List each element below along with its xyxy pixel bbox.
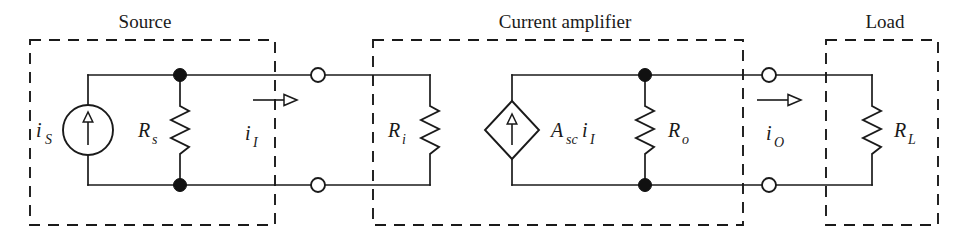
svg-text:L: L [907, 132, 916, 147]
svg-text:o: o [682, 132, 689, 147]
independent-current-source-symbol [63, 105, 113, 155]
svg-text:I: I [589, 132, 596, 147]
svg-text:sc: sc [566, 132, 578, 147]
resistor-ri-symbol [421, 106, 439, 154]
open-terminal-output-top [762, 68, 776, 82]
label-load-resistance: R L [893, 119, 916, 147]
svg-text:i: i [36, 119, 42, 141]
node-dot-source-bottom [174, 179, 187, 192]
circuit-diagram-canvas: Source Current amplifier Load [0, 0, 958, 251]
dependent-current-source-symbol [485, 101, 539, 159]
section-title-current-amplifier: Current amplifier [499, 11, 632, 32]
label-dependent-source: A sc i I [549, 119, 596, 147]
label-output-resistance: R o [667, 119, 689, 147]
svg-text:R: R [893, 119, 906, 141]
node-dot-source-top [174, 69, 187, 82]
resistor-rl-symbol [863, 106, 881, 154]
label-input-current: i I [245, 122, 259, 150]
svg-text:O: O [774, 135, 784, 150]
svg-text:i: i [766, 122, 772, 144]
circuit-diagram-figure: Source Current amplifier Load [0, 0, 958, 251]
svg-text:R: R [667, 119, 680, 141]
label-input-resistance: R i [387, 119, 406, 147]
label-source-current: i S [36, 119, 52, 147]
label-source-resistance: R s [137, 119, 158, 147]
section-title-source: Source [119, 11, 172, 32]
svg-text:i: i [402, 132, 406, 147]
svg-text:I: I [252, 135, 259, 150]
resistor-ro-symbol [636, 106, 654, 154]
svg-text:s: s [152, 132, 158, 147]
label-output-current: i O [766, 122, 784, 150]
svg-text:A: A [549, 119, 564, 141]
svg-text:S: S [45, 132, 52, 147]
resistor-rs-symbol [171, 106, 189, 154]
node-dot-amp-top [639, 69, 652, 82]
dashed-box-load [826, 40, 938, 225]
svg-text:R: R [387, 119, 400, 141]
open-terminal-input-top [311, 68, 325, 82]
current-arrow-iO [757, 95, 801, 106]
svg-text:i: i [582, 119, 588, 141]
svg-text:R: R [137, 119, 150, 141]
node-dot-amp-bottom [639, 179, 652, 192]
svg-text:i: i [245, 122, 251, 144]
open-terminal-input-bottom [311, 178, 325, 192]
section-title-load: Load [865, 11, 905, 32]
open-terminal-output-bottom [762, 178, 776, 192]
